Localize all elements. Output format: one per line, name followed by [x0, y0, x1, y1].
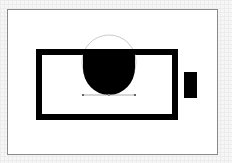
- selection-handle-right[interactable]: [134, 94, 136, 96]
- selection-handle-center[interactable]: [108, 94, 110, 96]
- drawing-layer: [0, 0, 232, 163]
- charge-fill-shape[interactable]: [83, 49, 135, 95]
- battery-terminal[interactable]: [184, 72, 197, 98]
- selection-handle-left[interactable]: [82, 94, 84, 96]
